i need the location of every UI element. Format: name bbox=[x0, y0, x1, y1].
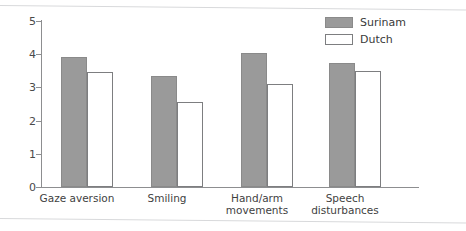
page-rule-bottom-divider bbox=[0, 218, 466, 224]
y-tick-label: 5 bbox=[29, 16, 36, 27]
bar-surinam-smiling[interactable] bbox=[151, 76, 177, 187]
bar-dutch-hand-arm-movements[interactable] bbox=[267, 84, 293, 187]
bar-surinam-gaze-aversion[interactable] bbox=[61, 57, 87, 187]
y-tick-mark bbox=[36, 87, 41, 88]
bar-dutch-smiling[interactable] bbox=[177, 102, 203, 187]
y-tick-label: 4 bbox=[29, 49, 36, 60]
bar-group-gaze-aversion bbox=[61, 21, 113, 187]
x-axis-line bbox=[41, 187, 419, 188]
y-tick-mark bbox=[36, 54, 41, 55]
bar-surinam-speech-disturbances[interactable] bbox=[329, 63, 355, 187]
y-tick-label: 0 bbox=[29, 182, 36, 193]
legend-label-surinam: Surinam bbox=[360, 17, 406, 28]
bar-dutch-gaze-aversion[interactable] bbox=[87, 72, 113, 187]
x-axis-label-speech-disturbances: Speech disturbances bbox=[295, 192, 395, 216]
bar-group-smiling bbox=[151, 21, 203, 187]
bar-group-hand-arm-movements bbox=[241, 21, 293, 187]
y-tick-label: 3 bbox=[29, 82, 36, 93]
x-axis-label-smiling: Smiling bbox=[117, 192, 217, 204]
bar-surinam-hand-arm-movements[interactable] bbox=[241, 53, 267, 187]
bar-dutch-speech-disturbances[interactable] bbox=[355, 71, 381, 187]
y-tick-label: 2 bbox=[29, 115, 36, 126]
y-tick-mark bbox=[36, 121, 41, 122]
legend-swatch-surinam-icon bbox=[325, 17, 353, 28]
legend-swatch-dutch-icon bbox=[325, 34, 353, 45]
y-tick-mark bbox=[36, 21, 41, 22]
x-axis-label-hand-arm-movements: Hand/arm movements bbox=[207, 192, 307, 216]
legend-item-dutch[interactable]: Dutch bbox=[325, 32, 406, 46]
legend-item-surinam[interactable]: Surinam bbox=[325, 15, 406, 29]
x-axis-label-gaze-aversion: Gaze aversion bbox=[27, 192, 127, 204]
page-rule-top-divider bbox=[0, 5, 466, 11]
chart-legend: Surinam Dutch bbox=[325, 15, 406, 49]
y-tick-mark bbox=[36, 154, 41, 155]
y-tick-label: 1 bbox=[29, 148, 36, 159]
legend-label-dutch: Dutch bbox=[360, 34, 393, 45]
y-tick-mark bbox=[36, 187, 41, 188]
